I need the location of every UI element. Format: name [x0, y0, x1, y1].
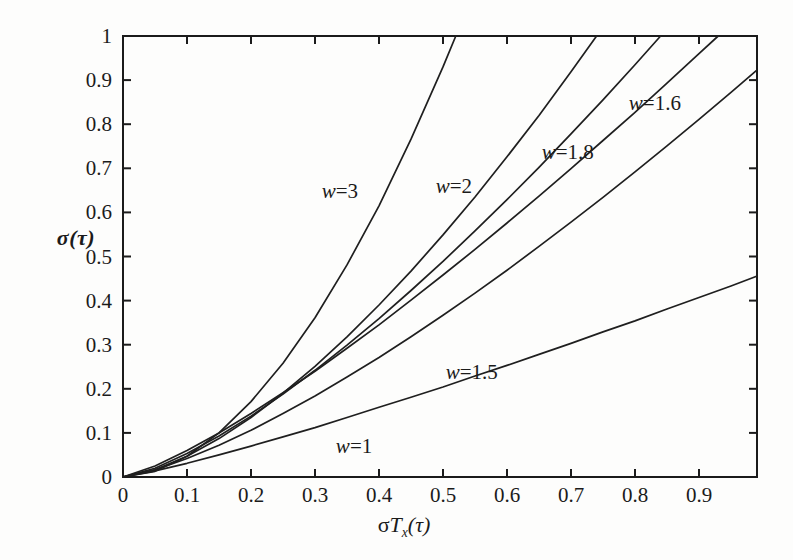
curve-w-1-8 [123, 36, 661, 477]
y-tick-label: 0.7 [86, 156, 112, 180]
y-tick-label: 0.9 [86, 68, 112, 92]
y-tick-label: 0.2 [86, 377, 112, 401]
x-axis-label: σTx(τ) [378, 512, 431, 538]
y-tick-label: 0 [102, 465, 113, 489]
curve-label-w-2: w=2 [436, 174, 472, 198]
x-tick-label: 0.8 [622, 483, 648, 507]
y-tick-label: 0.6 [86, 200, 112, 224]
chart-figure: 00.10.20.30.40.50.60.70.80.900.10.20.30.… [0, 0, 793, 560]
x-tick-label: 0.2 [238, 483, 264, 507]
y-tick-label: 0.4 [86, 289, 113, 313]
curve-label-w-1: w=1 [336, 434, 372, 458]
curve-w-1 [123, 276, 757, 477]
x-tick-label: 0.4 [366, 483, 393, 507]
x-axis-label-T: T [390, 512, 402, 537]
curve-label-w-3: w=3 [322, 179, 358, 203]
y-tick-label: 1 [102, 24, 113, 48]
y-tick-marks [123, 80, 757, 433]
curve-label-w-1-8: w=1.8 [542, 140, 594, 164]
x-tick-label: 0.3 [302, 483, 328, 507]
x-axis-label-tau: (τ) [408, 512, 431, 537]
x-tick-label: 0.6 [494, 483, 520, 507]
x-tick-label: 0 [118, 483, 129, 507]
y-tick-labels: 00.10.20.30.40.50.60.70.80.91 [86, 24, 113, 489]
y-tick-label: 0.1 [86, 421, 112, 445]
x-tick-marks [187, 36, 699, 477]
x-tick-label: 0.7 [558, 483, 584, 507]
x-tick-label: 0.1 [174, 483, 200, 507]
y-axis-label: σ(τ) [57, 225, 95, 251]
x-tick-label: 0.9 [686, 483, 712, 507]
curve-label-w-1-5: w=1.5 [446, 360, 498, 384]
x-tick-label: 0.5 [430, 483, 456, 507]
y-tick-label: 0.8 [86, 112, 112, 136]
line-chart: 00.10.20.30.40.50.60.70.80.900.10.20.30.… [0, 0, 793, 560]
x-axis-label-sigma: σ [378, 512, 390, 537]
curve-label-w-1-6: w=1.6 [629, 91, 681, 115]
y-tick-label: 0.3 [86, 333, 112, 357]
x-tick-labels: 00.10.20.30.40.50.60.70.80.9 [118, 483, 712, 507]
curve-w-1-5 [123, 70, 757, 477]
